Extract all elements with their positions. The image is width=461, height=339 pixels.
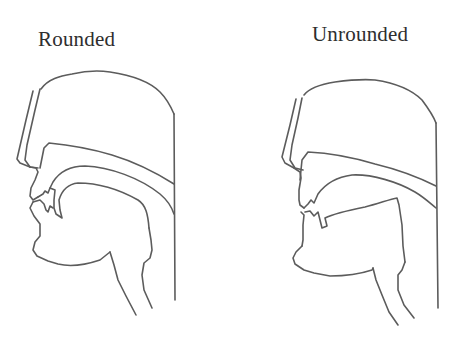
pharynx-front: [398, 262, 414, 318]
nose-inner: [290, 98, 303, 170]
pharynx-back-wall: [436, 123, 438, 308]
head-outline: [304, 80, 436, 123]
pharynx-front: [142, 228, 152, 308]
throat-front: [110, 252, 136, 315]
palate-upper: [300, 152, 436, 186]
vocal-tract-rounded: [17, 71, 175, 315]
jaw-outline: [293, 246, 373, 276]
head-outline: [41, 71, 174, 114]
jaw-outline: [30, 202, 110, 265]
tongue-surface: [304, 175, 436, 208]
throat-front: [373, 268, 398, 325]
velum-lower: [305, 198, 405, 262]
vocal-tract-unrounded: [282, 80, 438, 325]
upper-lip: [294, 168, 304, 208]
vocal-tract-diagrams: [0, 0, 461, 339]
nose-inner: [25, 89, 40, 168]
lower-lip: [33, 200, 53, 212]
upper-lip: [30, 167, 38, 200]
pharynx-back-wall: [174, 114, 175, 300]
velum-lower: [50, 183, 149, 228]
lower-lip: [301, 212, 304, 246]
tongue-surface: [38, 166, 174, 214]
palate-upper: [40, 143, 174, 184]
